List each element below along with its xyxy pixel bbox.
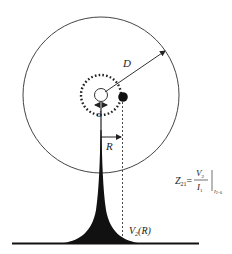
diameter-arrow [105, 51, 165, 92]
svg-text:I1: I1 [196, 182, 203, 193]
potential-spike [64, 130, 138, 243]
label-R: R [105, 140, 113, 152]
diagram-canvas: D d R V2(R) Z21= V2 I1 I2=0 [0, 0, 232, 254]
inner-electrode-circle [95, 89, 108, 102]
svg-text:V2: V2 [196, 168, 205, 179]
impedance-formula: Z21= V2 I1 I2=0 [175, 168, 222, 195]
svg-text:I2=0: I2=0 [213, 189, 222, 195]
svg-text:Z21=: Z21= [175, 175, 193, 187]
label-D: D [122, 57, 131, 69]
probe-dot [118, 92, 128, 102]
label-V2R: V2(R) [129, 225, 152, 237]
